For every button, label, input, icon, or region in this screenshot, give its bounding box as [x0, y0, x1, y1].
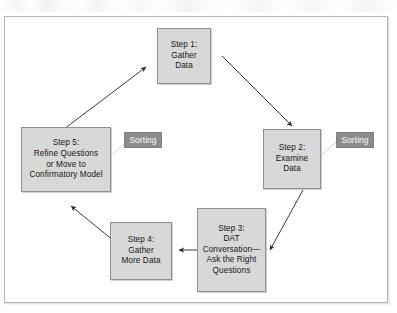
badge-sorting-left-label: Sorting	[129, 134, 156, 146]
node-step-5[interactable]: Step 5: Refine Questions or Move to Conf…	[21, 127, 111, 192]
node-step-1[interactable]: Step 1: Gather Data	[157, 28, 211, 84]
badge-sorting-left[interactable]: Sorting	[124, 132, 162, 148]
node-step-4-label: Step 4: Gather More Data	[121, 235, 160, 267]
node-step-3[interactable]: Step 3: DAT Conversation— Ask the Right …	[197, 208, 266, 292]
node-step-1-label: Step 1: Gather Data	[171, 40, 198, 72]
badge-sorting-right[interactable]: Sorting	[336, 132, 374, 148]
node-step-2-label: Step 2: Examine Data	[276, 143, 309, 175]
arrow-5-to-1	[64, 67, 146, 129]
node-step-3-label: Step 3: DAT Conversation— Ask the Right …	[203, 224, 261, 277]
node-step-5-label: Step 5: Refine Questions or Move to Conf…	[29, 138, 102, 180]
node-step-4[interactable]: Step 4: Gather More Data	[110, 222, 172, 280]
diagram-page: Step 1: Gather Data Step 2: Examine Data…	[0, 0, 397, 313]
arrow-1-to-2	[222, 56, 292, 126]
badge-sorting-right-label: Sorting	[341, 134, 368, 146]
leader-line-sorting-right	[322, 142, 336, 155]
arrow-2-to-3	[270, 190, 303, 250]
node-step-2[interactable]: Step 2: Examine Data	[263, 129, 321, 189]
